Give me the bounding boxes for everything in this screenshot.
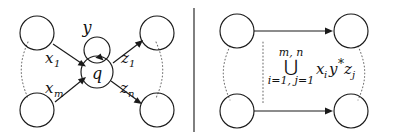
edge-label-z1-sub: 1 [129, 58, 135, 69]
right-ellipsis-arc-left [223, 46, 230, 100]
edge-label-zn-sub: n [128, 88, 134, 99]
left-diagram: q y x 1 x m z 1 z n [20, 16, 174, 127]
right-edge-bottom-arrowhead [325, 107, 333, 114]
union-lower-limit: i=1, j=1 [268, 74, 314, 87]
right-state-bottom-left [220, 94, 254, 128]
right-ellipsis-arc-right [358, 46, 365, 100]
union-body-x-sub: i [324, 69, 327, 80]
left-state-bottom-right [140, 93, 174, 127]
edge-label-xm-base: x [45, 79, 54, 97]
union-expression: m, n ⋃ i=1, j=1 x i y * z j [268, 46, 355, 87]
left-state-bottom-left [20, 93, 54, 127]
left-ellipsis-arc-left [21, 42, 28, 98]
union-body: x i y * z j [316, 57, 355, 80]
center-state-label: q [92, 64, 102, 83]
left-state-top-left [20, 16, 54, 50]
edge-label-xm-sub: m [54, 88, 63, 99]
big-union-icon: ⋃ [284, 56, 298, 76]
edge-label-z1: z 1 [120, 49, 135, 69]
right-state-bottom-right [334, 94, 368, 128]
self-loop-label: y [81, 18, 92, 37]
edge-label-x1-sub: 1 [54, 58, 60, 69]
right-diagram: m, n ⋃ i=1, j=1 x i y * z j [220, 14, 368, 128]
left-state-top-right [140, 16, 174, 50]
edge-label-zn-base: z [119, 79, 128, 97]
edge-label-zn: z n [119, 79, 134, 99]
edge-label-x1-base: x [45, 49, 54, 67]
figure-canvas: q y x 1 x m z 1 z n [0, 0, 393, 138]
edge-label-z1-base: z [120, 49, 129, 67]
edge-label-x1: x 1 [45, 49, 60, 69]
union-body-z-base: z [343, 60, 352, 78]
union-body-y-base: y [328, 60, 338, 78]
edge-label-xm: x m [45, 79, 63, 99]
figure-root: q y x 1 x m z 1 z n [0, 0, 393, 138]
right-state-top-left [220, 14, 254, 48]
right-edge-top-arrowhead [325, 27, 333, 34]
right-state-top-right [334, 14, 368, 48]
